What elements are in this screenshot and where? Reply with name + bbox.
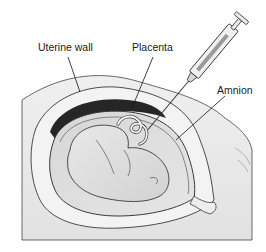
syringe-plunger-rod	[231, 18, 242, 30]
diagram-artwork	[0, 0, 266, 252]
placenta-label: Placenta	[132, 42, 173, 53]
uterine-wall-label: Uterine wall	[38, 42, 93, 53]
syringe-fluid	[196, 34, 229, 72]
amnion-label: Amnion	[217, 85, 253, 96]
amniocentesis-diagram: Uterine wall Placenta Amnion	[0, 0, 266, 252]
